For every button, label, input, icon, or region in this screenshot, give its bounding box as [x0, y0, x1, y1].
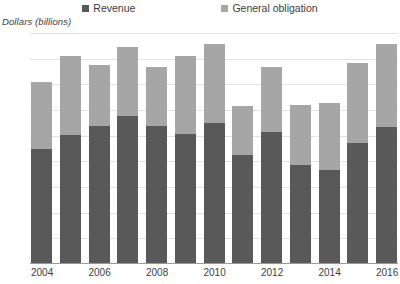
- bar-segment-revenue: [261, 132, 282, 264]
- x-axis-tick-label: [232, 266, 253, 282]
- bar-column: [60, 33, 81, 264]
- bar-segment-revenue: [175, 134, 196, 264]
- legend-swatch-general-obligation: [221, 5, 228, 12]
- chart-legend: Revenue General obligation: [0, 0, 400, 16]
- x-axis-tick-label: 2014: [319, 266, 340, 282]
- bar-segment-general-obligation: [60, 56, 81, 135]
- bar-segment-general-obligation: [319, 103, 340, 169]
- x-axis-tick-label: [175, 266, 196, 282]
- bar-segment-revenue: [31, 149, 52, 265]
- bar-segment-general-obligation: [290, 105, 311, 166]
- bar-segment-revenue: [232, 155, 253, 264]
- y-axis-title: Dollars (billions): [2, 16, 71, 27]
- bar-segment-general-obligation: [376, 44, 397, 128]
- bar-column: [232, 33, 253, 264]
- bar-column: [31, 33, 52, 264]
- bar-column: [376, 33, 397, 264]
- x-axis-tick-label: 2004: [31, 266, 52, 282]
- x-axis-labels: 2004200620082010201220142016: [30, 266, 398, 282]
- bar-segment-revenue: [60, 135, 81, 264]
- x-axis-line: [30, 263, 398, 264]
- legend-label-general-obligation: General obligation: [232, 3, 317, 14]
- bar-segment-general-obligation: [31, 82, 52, 149]
- bar-segment-revenue: [117, 116, 138, 264]
- bar-segment-revenue: [89, 126, 110, 264]
- bar-segment-general-obligation: [261, 67, 282, 132]
- bar-column: [175, 33, 196, 264]
- bar-column: [146, 33, 167, 264]
- x-axis-tick-label: [117, 266, 138, 282]
- legend-item-revenue: Revenue: [82, 3, 135, 14]
- bar-column: [261, 33, 282, 264]
- bar-segment-general-obligation: [347, 63, 368, 144]
- x-axis-tick-label: [60, 266, 81, 282]
- bar-segment-general-obligation: [146, 67, 167, 127]
- bar-segment-revenue: [146, 126, 167, 264]
- bar-segment-revenue: [204, 123, 225, 264]
- bar-segment-revenue: [319, 170, 340, 264]
- legend-swatch-revenue: [82, 5, 89, 12]
- bar-segment-revenue: [376, 127, 397, 264]
- legend-item-general-obligation: General obligation: [221, 3, 317, 14]
- stacked-bar-chart: Revenue General obligation Dollars (bill…: [0, 0, 400, 284]
- x-axis-tick-label: [347, 266, 368, 282]
- bar-segment-general-obligation: [89, 65, 110, 127]
- x-axis-tick-label: 2008: [146, 266, 167, 282]
- bar-column: [117, 33, 138, 264]
- bar-segment-revenue: [290, 165, 311, 264]
- bar-segment-general-obligation: [175, 56, 196, 134]
- bar-group: [30, 33, 398, 264]
- bar-column: [89, 33, 110, 264]
- bar-column: [319, 33, 340, 264]
- bar-segment-general-obligation: [232, 106, 253, 155]
- legend-label-revenue: Revenue: [93, 3, 135, 14]
- bar-column: [290, 33, 311, 264]
- bar-segment-general-obligation: [117, 47, 138, 116]
- bar-column: [347, 33, 368, 264]
- x-axis-tick-label: 2012: [261, 266, 282, 282]
- bar-segment-general-obligation: [204, 44, 225, 123]
- x-axis-tick-label: 2006: [89, 266, 110, 282]
- bar-column: [204, 33, 225, 264]
- plot-area: 450400350300250200150100500: [30, 33, 398, 264]
- x-axis-tick-label: 2016: [376, 266, 397, 282]
- x-axis-tick-label: [290, 266, 311, 282]
- bar-segment-revenue: [347, 143, 368, 264]
- x-axis-tick-label: 2010: [204, 266, 225, 282]
